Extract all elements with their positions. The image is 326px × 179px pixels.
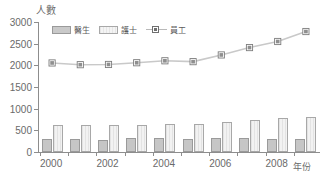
line-marker-staff	[219, 53, 224, 58]
y-tick-label: 0	[26, 147, 32, 158]
line-marker-staff	[106, 62, 111, 67]
y-tick-label: 2500	[10, 38, 32, 49]
chart-container: 人數 年份 醫生 護士 員工 050010001500200025003000 …	[0, 0, 326, 179]
y-tick-label: 3000	[10, 17, 32, 28]
line-path-staff	[52, 32, 306, 65]
x-tick	[266, 152, 267, 156]
x-tick-label: 2000	[40, 158, 62, 169]
y-tick-label: 1000	[10, 103, 32, 114]
x-axis-title: 年份	[293, 160, 311, 173]
line-series-layer	[38, 22, 320, 152]
x-axis-line	[38, 152, 320, 153]
x-tick	[237, 152, 238, 156]
x-tick	[40, 152, 41, 156]
y-tick-label: 500	[15, 125, 32, 136]
plot-area: 050010001500200025003000 200020022004200…	[38, 22, 320, 152]
line-marker-staff	[134, 60, 139, 65]
line-marker-staff	[78, 62, 83, 67]
x-tick	[181, 152, 182, 156]
line-marker-staff	[50, 61, 55, 66]
x-tick-label: 2008	[266, 158, 288, 169]
y-tick-label: 1500	[10, 82, 32, 93]
x-tick-label: 2006	[209, 158, 231, 169]
y-tick	[34, 152, 38, 153]
line-marker-staff	[247, 45, 252, 50]
x-tick	[68, 152, 69, 156]
x-tick	[125, 152, 126, 156]
x-tick	[294, 152, 295, 156]
line-marker-staff	[163, 58, 168, 63]
y-tick-label: 2000	[10, 60, 32, 71]
x-tick-label: 2002	[96, 158, 118, 169]
x-tick	[96, 152, 97, 156]
x-tick-label: 2004	[153, 158, 175, 169]
line-marker-staff	[304, 29, 309, 34]
line-marker-staff	[191, 59, 196, 64]
x-tick	[153, 152, 154, 156]
line-marker-staff	[275, 39, 280, 44]
y-axis-title: 人數	[36, 2, 56, 17]
x-tick	[209, 152, 210, 156]
